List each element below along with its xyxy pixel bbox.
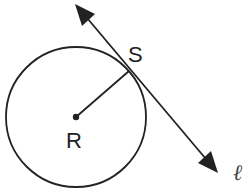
diagram-canvas (0, 0, 251, 190)
tangent-line (82, 12, 211, 165)
diagram: S R ℓ (0, 0, 251, 190)
radius-segment (76, 71, 129, 117)
center-r-label: R (66, 128, 82, 154)
line-label: ℓ (233, 160, 242, 186)
point-s-label: S (128, 42, 143, 68)
center-point (73, 114, 79, 120)
